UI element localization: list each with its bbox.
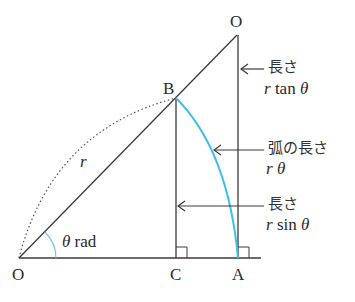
sin-r: r: [266, 215, 273, 234]
tan-fn: tan: [275, 79, 296, 98]
arrow-tan: [241, 64, 264, 74]
label-sin-expr: r sin θ: [266, 216, 309, 233]
arrow-sin: [178, 201, 264, 211]
arc-segment: [176, 98, 238, 258]
label-top-o: O: [230, 13, 242, 30]
right-angle-mark-c: [176, 247, 187, 258]
trig-diagram: O O B C A r θ rad 長さ r tan θ 弧の長さ r θ 長さ…: [0, 0, 355, 302]
arc-theta: θ: [277, 159, 285, 178]
label-tan-expr: r tan θ: [264, 80, 308, 97]
tan-theta: θ: [300, 79, 308, 98]
label-tan-jp: 長さ: [268, 60, 298, 75]
right-angle-mark-a: [238, 247, 249, 258]
arc-r: r: [266, 159, 273, 178]
arrow-arc: [214, 145, 264, 155]
label-b: B: [163, 80, 174, 97]
label-sin-jp: 長さ: [268, 197, 298, 212]
angle-arc: [45, 232, 56, 258]
label-arc-jp: 弧の長さ: [268, 141, 328, 156]
label-radius: r: [80, 153, 87, 170]
sin-fn: sin: [277, 215, 297, 234]
label-a: A: [232, 266, 244, 283]
angle-theta: θ: [62, 232, 70, 251]
label-arc-expr: r θ: [266, 160, 285, 177]
tan-r: r: [264, 79, 271, 98]
hypotenuse-line: [19, 35, 237, 258]
label-angle: θ rad: [62, 233, 96, 250]
angle-unit: rad: [75, 232, 97, 251]
sin-theta: θ: [301, 215, 309, 234]
label-origin: O: [12, 266, 24, 283]
label-c: C: [170, 266, 181, 283]
